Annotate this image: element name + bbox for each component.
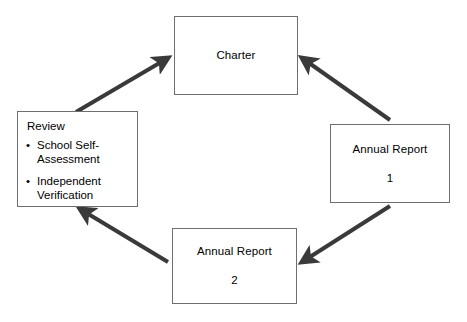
node-review-bullet-list: • School Self- Assessment • Independent … [26, 139, 129, 202]
node-annual-report-2[interactable]: Annual Report 2 [172, 228, 297, 304]
arrow-annual-report-1-to-annual-report-2 [302, 206, 390, 262]
node-annual-report-2-title: Annual Report [197, 244, 272, 259]
node-annual-report-2-number: 2 [231, 273, 237, 288]
node-annual-report-1-title: Annual Report [353, 142, 428, 157]
cycle-diagram: Charter Annual Report 1 Annual Report 2 … [0, 0, 467, 322]
arrow-annual-report-1-to-charter [302, 58, 390, 120]
node-review-bullet-2: • Independent Verification [26, 175, 129, 202]
arrow-review-to-charter [76, 58, 168, 112]
node-annual-report-1[interactable]: Annual Report 1 [330, 124, 450, 203]
bullet-dot-icon: • [26, 175, 30, 189]
node-review-bullet-2-line-1: Independent [37, 175, 101, 187]
node-review-bullet-1: • School Self- Assessment [26, 139, 129, 166]
node-review-heading: Review [27, 119, 129, 133]
node-review-bullet-1-line-1: School Self- [37, 139, 99, 151]
node-charter-title: Charter [216, 48, 255, 63]
arrow-annual-report-2-to-review [80, 209, 168, 262]
node-review[interactable]: Review • School Self- Assessment • Indep… [17, 111, 138, 207]
node-charter[interactable]: Charter [174, 16, 298, 95]
node-review-bullet-1-line-2: Assessment [37, 153, 129, 167]
node-annual-report-1-number: 1 [387, 171, 393, 186]
node-review-bullet-2-line-2: Verification [37, 189, 129, 203]
bullet-dot-icon: • [26, 139, 30, 153]
